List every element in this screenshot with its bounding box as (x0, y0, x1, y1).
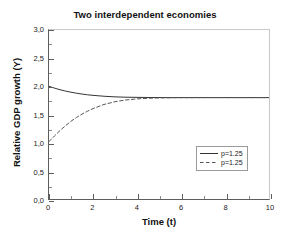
x-axis-tick (227, 194, 228, 199)
y-axis-tick-label: 0,0 (34, 196, 44, 205)
curve-layer (49, 30, 269, 199)
y-axis-minor-tick (49, 158, 52, 159)
x-axis-tick (182, 194, 183, 199)
x-axis-tick (271, 194, 272, 199)
y-axis-tick-label: 0,5 (34, 167, 44, 176)
legend-entry[interactable]: p=1.25 (200, 149, 243, 158)
x-axis-minor-tick (71, 196, 72, 199)
x-axis-tick-label: 0 (46, 203, 50, 212)
x-axis-tick-label: 6 (179, 203, 183, 212)
legend-label: p=1.25 (221, 158, 243, 167)
x-axis-title: Time (t) (48, 216, 270, 227)
y-axis-minor-tick (49, 101, 52, 102)
x-axis-minor-tick (116, 196, 117, 199)
legend-line-sample (200, 150, 218, 157)
y-axis-minor-tick (49, 44, 52, 45)
x-axis-tick-labels: 0246810 (48, 203, 270, 217)
y-axis-tick-label: 2,0 (34, 82, 44, 91)
y-axis-tick (49, 87, 54, 88)
legend-entry[interactable]: p=1.25 (200, 158, 243, 167)
y-axis-tick (49, 30, 54, 31)
y-axis-tick-label: 3,0 (34, 25, 44, 34)
x-axis-tick-label: 8 (224, 203, 228, 212)
plot-canvas (49, 30, 269, 199)
x-axis-minor-tick (160, 196, 161, 199)
x-axis-tick (138, 194, 139, 199)
y-axis-minor-tick (49, 73, 52, 74)
y-axis-tick (49, 173, 54, 174)
x-axis-tick (49, 194, 50, 199)
x-axis-minor-tick (204, 196, 205, 199)
y-axis-tick (49, 116, 54, 117)
x-axis-tick-label: 4 (135, 203, 139, 212)
plot-area (48, 29, 270, 200)
y-axis-title: Relative GDP growth (Y) (11, 23, 22, 203)
chart-title: Two interdependent economies (0, 9, 290, 20)
data-series-2 (49, 98, 269, 142)
chart-figure: Two interdependent economies 0,00,51,01,… (0, 0, 290, 242)
x-axis-tick-label: 2 (90, 203, 94, 212)
y-axis-tick (49, 201, 54, 202)
data-series-1 (49, 86, 269, 97)
legend-label: p=1.25 (221, 149, 243, 158)
y-axis-tick (49, 59, 54, 60)
y-axis-minor-tick (49, 130, 52, 131)
y-axis-tick-label: 2,5 (34, 53, 44, 62)
y-axis-tick-label: 1,0 (34, 139, 44, 148)
legend-line-sample (200, 159, 218, 166)
y-axis-minor-tick (49, 187, 52, 188)
x-axis-tick (93, 194, 94, 199)
chart-legend: p=1.25p=1.25 (196, 146, 248, 171)
x-axis-minor-tick (249, 196, 250, 199)
y-axis-tick (49, 144, 54, 145)
y-axis-tick-label: 1,5 (34, 110, 44, 119)
x-axis-tick-label: 10 (266, 203, 274, 212)
